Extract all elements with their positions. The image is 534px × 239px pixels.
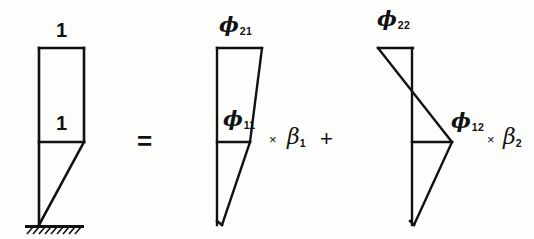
label-beta-2: β2 bbox=[503, 126, 522, 149]
diagram-canvas: 1 1 = ϕ21 ϕ11 × β1 + ϕ22 ϕ12 × β2 bbox=[0, 0, 534, 239]
panel3-lower-diagonal bbox=[414, 142, 452, 225]
phi-12-base: ϕ bbox=[451, 108, 471, 133]
beta-2-base: β bbox=[503, 124, 516, 149]
label-beta-1: β1 bbox=[287, 126, 306, 149]
phi-22-subscript: 22 bbox=[398, 19, 410, 31]
phi-22-base: ϕ bbox=[377, 6, 397, 31]
phi-12-subscript: 12 bbox=[472, 121, 484, 133]
panel3-crossing-diagonal bbox=[378, 48, 452, 142]
fixed-support bbox=[25, 227, 84, 235]
panel1-triangle-hypotenuse bbox=[39, 142, 84, 225]
panel-cantilever-unit-load bbox=[39, 48, 84, 225]
panel-mode-1 bbox=[217, 48, 262, 225]
beta-1-base: β bbox=[287, 124, 300, 149]
phi-21-subscript: 21 bbox=[240, 25, 252, 37]
phi-11-subscript: 11 bbox=[244, 119, 256, 131]
label-phi-12: ϕ12 bbox=[451, 110, 484, 133]
label-unit-top: 1 bbox=[56, 20, 67, 40]
label-phi-21: ϕ21 bbox=[219, 14, 252, 37]
support-hatching bbox=[27, 227, 81, 234]
label-phi-22: ϕ22 bbox=[377, 8, 410, 31]
beta-2-subscript: 2 bbox=[516, 137, 522, 149]
panel-mode-2 bbox=[378, 48, 452, 225]
panel2-lower-taper-edge bbox=[222, 142, 250, 225]
phi-11-base: ϕ bbox=[223, 106, 243, 131]
phi-21-base: ϕ bbox=[219, 12, 239, 37]
beta-1-subscript: 1 bbox=[300, 137, 306, 149]
label-unit-mid: 1 bbox=[56, 113, 67, 133]
panel3-tip-closure bbox=[410, 221, 414, 225]
times-sign-1: × bbox=[269, 133, 277, 146]
times-sign-2: × bbox=[487, 133, 495, 146]
equals-sign: = bbox=[137, 128, 152, 154]
plus-sign: + bbox=[320, 128, 333, 150]
label-phi-11: ϕ11 bbox=[223, 108, 255, 131]
